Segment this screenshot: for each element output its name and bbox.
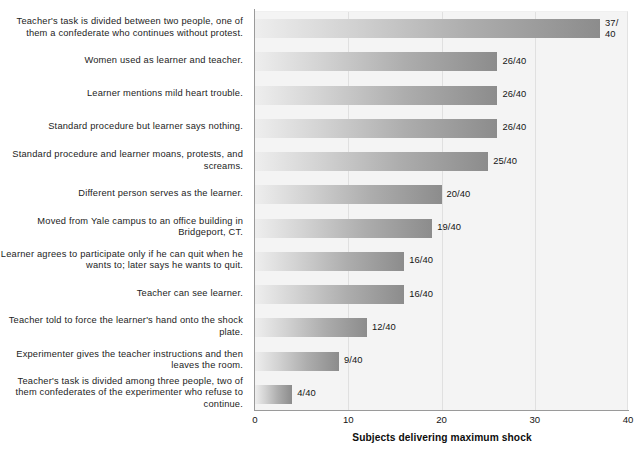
category-label: Women used as learner and teacher.: [0, 55, 243, 67]
x-axis-title: Subjects delivering maximum shock: [255, 432, 629, 443]
x-axis-line: [255, 410, 629, 411]
bar-value-label: 16/40: [409, 289, 433, 299]
bar: [255, 385, 292, 404]
gridline-10: [348, 12, 349, 410]
category-label-column: Teacher's task is divided between two pe…: [0, 11, 249, 410]
bar: [255, 152, 488, 171]
category-label: Standard procedure but learner says noth…: [0, 121, 243, 133]
bar: [255, 52, 497, 71]
bar-value-label: 26/40: [502, 122, 526, 132]
x-tick-label-10: 10: [333, 414, 363, 425]
bar-value-label: 4/40: [297, 388, 316, 398]
x-tick-label-20: 20: [427, 414, 457, 425]
gridline-20: [442, 12, 443, 410]
bar-value-label: 16/40: [409, 255, 433, 265]
category-label: Teacher's task is divided between two pe…: [0, 16, 243, 39]
bar-value-label: 26/40: [502, 56, 526, 66]
gridlines: [255, 12, 627, 410]
x-tick-label-0: 0: [240, 414, 270, 425]
bar-value-label: 12/40: [372, 322, 396, 332]
x-tick-label-30: 30: [520, 414, 550, 425]
bar: [255, 219, 432, 238]
bar: [255, 318, 367, 337]
bar: [255, 86, 497, 105]
category-label: Different person serves as the learner.: [0, 188, 243, 200]
bar: [255, 352, 339, 371]
bar: [255, 19, 600, 38]
bar-chart: Teacher's task is divided between two pe…: [0, 0, 644, 460]
category-label: Teacher told to force the learner's hand…: [0, 315, 243, 338]
category-label: Teacher's task is divided among three pe…: [0, 376, 243, 411]
gridline-30: [535, 12, 536, 410]
category-label: Teacher can see learner.: [0, 288, 243, 300]
bar-value-label: 26/40: [502, 89, 526, 99]
x-tick-label-40: 40: [613, 414, 643, 425]
bar: [255, 252, 404, 271]
y-axis-line: [254, 9, 255, 411]
bar-value-label: 9/40: [344, 355, 363, 365]
bar-value-label: 20/40: [447, 189, 471, 199]
category-label: Learner mentions mild heart trouble.: [0, 88, 243, 100]
bar-value-label: 19/40: [437, 222, 461, 232]
category-label: Standard procedure and learner moans, pr…: [0, 149, 243, 172]
category-label: Learner agrees to participate only if he…: [0, 249, 243, 272]
category-label: Moved from Yale campus to an office buil…: [0, 216, 243, 239]
plot-area: [255, 11, 628, 410]
bar: [255, 119, 497, 138]
bar-value-label: 37/ 40: [605, 18, 618, 39]
category-label: Experimenter gives the teacher instructi…: [0, 349, 243, 372]
bar: [255, 185, 442, 204]
bar-value-label: 25/40: [493, 156, 517, 166]
bar: [255, 285, 404, 304]
